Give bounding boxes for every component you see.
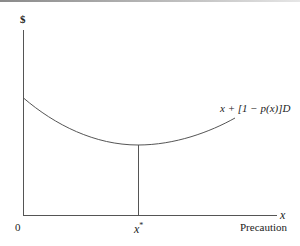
x-axis-label: x [279,208,286,222]
origin-label: 0 [15,221,21,233]
curve-label: x + [1 − p(x)]D [219,102,290,115]
optimum-label-star: * [139,221,143,230]
optimum-label: x* [133,221,143,236]
cost-diagram: $ x 0 x* Precaution x + [1 − p(x)]D [0,0,300,246]
y-axis-label: $ [20,13,26,25]
total-cost-curve [24,98,236,145]
x-axis-title: Precaution [240,221,288,233]
